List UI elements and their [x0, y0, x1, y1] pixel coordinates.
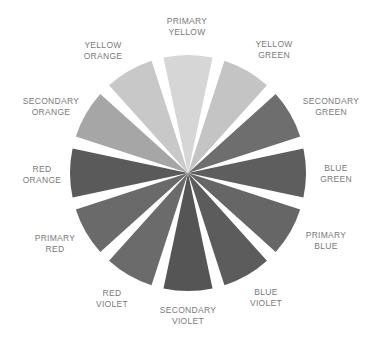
- label-secondary-orange: SECONDARYORANGE: [23, 96, 79, 118]
- label-blue-green: BLUEGREEN: [320, 163, 352, 185]
- label-primary-blue: PRIMARYBLUE: [306, 230, 347, 252]
- label-yellow-orange: YELLOWORANGE: [84, 40, 123, 62]
- label-line-2: GREEN: [320, 174, 352, 185]
- label-line-1: PRIMARY: [167, 16, 208, 27]
- wedge-blue-green: [188, 148, 306, 197]
- label-line-2: VIOLET: [160, 316, 216, 327]
- wedge-red-orange: [70, 148, 188, 197]
- label-line-2: BLUE: [306, 241, 347, 252]
- label-line-1: BLUE: [250, 287, 282, 298]
- label-line-1: RED: [96, 288, 128, 299]
- label-red-violet: REDVIOLET: [96, 288, 128, 310]
- wedge-primary-yellow: [163, 55, 212, 173]
- label-primary-yellow: PRIMARYYELLOW: [167, 16, 208, 38]
- label-line-2: RED: [35, 244, 76, 255]
- label-line-2: VIOLET: [96, 299, 128, 310]
- label-line-2: YELLOW: [167, 27, 208, 38]
- label-blue-violet: BLUEVIOLET: [250, 287, 282, 309]
- label-line-2: GREEN: [255, 50, 292, 61]
- label-line-1: BLUE: [320, 163, 352, 174]
- label-line-1: RED: [23, 164, 62, 175]
- label-line-1: PRIMARY: [306, 230, 347, 241]
- label-line-1: SECONDARY: [160, 305, 216, 316]
- label-line-2: ORANGE: [84, 51, 123, 62]
- wedge-secondary-violet: [163, 173, 212, 291]
- label-line-1: YELLOW: [84, 40, 123, 51]
- label-line-2: ORANGE: [23, 175, 62, 186]
- label-secondary-violet: SECONDARYVIOLET: [160, 305, 216, 327]
- label-line-2: VIOLET: [250, 298, 282, 309]
- label-line-1: PRIMARY: [35, 233, 76, 244]
- label-red-orange: REDORANGE: [23, 164, 62, 186]
- label-primary-red: PRIMARYRED: [35, 233, 76, 255]
- label-line-2: GREEN: [303, 107, 359, 118]
- label-line-1: SECONDARY: [303, 96, 359, 107]
- label-line-1: YELLOW: [255, 39, 292, 50]
- label-secondary-green: SECONDARYGREEN: [303, 96, 359, 118]
- label-line-2: ORANGE: [23, 107, 79, 118]
- label-line-1: SECONDARY: [23, 96, 79, 107]
- label-yellow-green: YELLOWGREEN: [255, 39, 292, 61]
